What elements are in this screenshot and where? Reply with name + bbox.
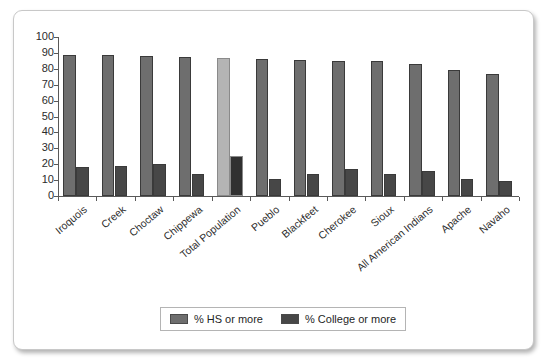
bar-college-or-more	[153, 164, 166, 196]
y-tick-label: 50	[28, 111, 54, 122]
y-tick-label: 40	[28, 126, 54, 137]
bar-hs-or-more	[409, 64, 422, 196]
bar-group	[289, 37, 327, 196]
y-tick-label: 20	[28, 158, 54, 169]
bar-group	[212, 37, 250, 196]
bar-college-or-more	[422, 171, 435, 196]
y-tick-label: 80	[28, 63, 54, 74]
x-tick-mark	[289, 197, 290, 201]
chart-figure-frame: 1009080706050403020100 IroquoisCreekChoc…	[13, 10, 534, 350]
x-axis-label-text: Sioux	[368, 203, 396, 229]
bar-college-or-more	[384, 174, 397, 196]
bar-college-or-more	[345, 169, 358, 196]
bar-hs-or-more	[371, 61, 384, 196]
bar-hs-or-more	[140, 56, 153, 196]
x-tick-mark	[519, 197, 520, 201]
legend-label: % HS or more	[194, 313, 263, 325]
chart-plot-area: 1009080706050403020100 IroquoisCreekChoc…	[14, 11, 535, 351]
x-tick-mark	[58, 197, 59, 201]
bar-hs-or-more	[294, 60, 307, 196]
bar-group	[135, 37, 173, 196]
bar-college-or-more	[307, 174, 320, 196]
x-axis-label-text: Pueblo	[248, 203, 281, 233]
y-tick-label: 70	[28, 79, 54, 90]
y-tick-label: 100	[28, 31, 54, 42]
legend-swatch	[170, 314, 188, 324]
x-axis-label-text: Blackfeet	[279, 203, 320, 240]
bar-hs-or-more	[217, 58, 230, 196]
bar-group	[173, 37, 211, 196]
bar-hs-or-more	[332, 61, 345, 196]
bar-hs-or-more	[63, 55, 76, 197]
bar-college-or-more	[192, 174, 205, 196]
legend-entry: % College or more	[281, 313, 396, 325]
bar-group	[96, 37, 134, 196]
x-axis-label-text: Creek	[98, 203, 127, 230]
bar-hs-or-more	[102, 55, 115, 196]
x-tick-mark	[135, 197, 136, 201]
bar-hs-or-more	[486, 74, 499, 196]
x-tick-mark	[96, 197, 97, 201]
x-axis-label-text: Choctaw	[127, 203, 166, 238]
bar-series-layer	[58, 37, 519, 196]
x-axis-label-text: Cherokee	[315, 203, 358, 241]
x-tick-mark	[327, 197, 328, 201]
y-tick-label: 0	[28, 190, 54, 201]
bar-group	[250, 37, 288, 196]
legend-entry: % HS or more	[170, 313, 263, 325]
bar-hs-or-more	[448, 70, 461, 196]
bar-group	[442, 37, 480, 196]
x-axis-label-text: Iroquois	[53, 203, 89, 236]
x-tick-mark	[442, 197, 443, 201]
bar-college-or-more	[269, 179, 282, 196]
x-axis-label-text: Navaho	[476, 203, 511, 235]
y-tick-label: 30	[28, 142, 54, 153]
y-tick-label: 10	[28, 174, 54, 185]
x-tick-mark	[481, 197, 482, 201]
x-tick-mark	[365, 197, 366, 201]
bar-college-or-more	[230, 156, 243, 196]
bar-hs-or-more	[256, 59, 269, 196]
y-tick-label: 60	[28, 95, 54, 106]
bar-group	[58, 37, 96, 196]
bar-college-or-more	[461, 179, 474, 196]
x-axis-label-text: Apache	[438, 203, 473, 235]
bar-group	[481, 37, 519, 196]
x-tick-mark	[404, 197, 405, 201]
bar-group	[404, 37, 442, 196]
bar-college-or-more	[499, 181, 512, 196]
legend-label: % College or more	[305, 313, 396, 325]
x-tick-mark	[212, 197, 213, 201]
bar-group	[365, 37, 403, 196]
y-tick-label: 90	[28, 47, 54, 58]
bar-college-or-more	[115, 166, 128, 196]
x-tick-mark	[250, 197, 251, 201]
bar-college-or-more	[76, 167, 89, 196]
legend-swatch	[281, 314, 299, 324]
chart-legend: % HS or more% College or more	[160, 307, 406, 331]
bar-hs-or-more	[179, 57, 192, 196]
bar-group	[327, 37, 365, 196]
x-tick-mark	[173, 197, 174, 201]
